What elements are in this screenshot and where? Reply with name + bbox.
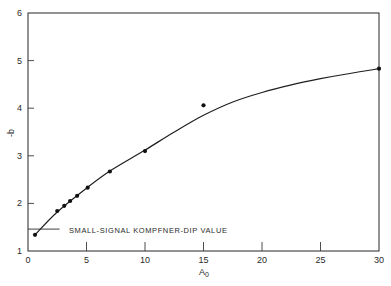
y-tick-label: 1: [17, 246, 22, 256]
data-point: [108, 169, 112, 173]
fitted-curve: [35, 69, 379, 235]
data-point: [68, 199, 72, 203]
data-point: [75, 194, 79, 198]
data-point: [377, 67, 381, 71]
x-tick-label: 30: [374, 255, 384, 265]
axis-ticks: [28, 61, 321, 251]
y-tick-label: 5: [17, 56, 22, 66]
x-tick-label: 10: [140, 255, 150, 265]
x-axis-label-subscript: 0: [205, 271, 209, 278]
y-axis-label: -b: [6, 129, 16, 137]
data-point: [86, 186, 90, 190]
chart: 051015202530123456 SMALL-SIGNAL KOMPFNER…: [0, 0, 391, 286]
y-tick-label: 2: [17, 198, 22, 208]
data-point: [143, 149, 147, 153]
x-tick-label: 20: [257, 255, 267, 265]
data-point: [55, 209, 59, 213]
x-tick-label: 5: [84, 255, 89, 265]
y-tick-label: 4: [17, 103, 22, 113]
y-tick-label: 6: [17, 8, 22, 18]
x-axis-label: A0: [199, 267, 209, 278]
data-point: [201, 103, 205, 107]
data-points: [33, 67, 381, 237]
y-tick-label: 3: [17, 151, 22, 161]
x-tick-label: 25: [315, 255, 325, 265]
data-point: [62, 204, 66, 208]
data-point: [33, 233, 37, 237]
annotation-label: SMALL-SIGNAL KOMPFNER-DIP VALUE: [69, 226, 228, 235]
x-tick-label: 0: [25, 255, 30, 265]
plot-frame: [28, 13, 379, 251]
x-tick-label: 15: [198, 255, 208, 265]
